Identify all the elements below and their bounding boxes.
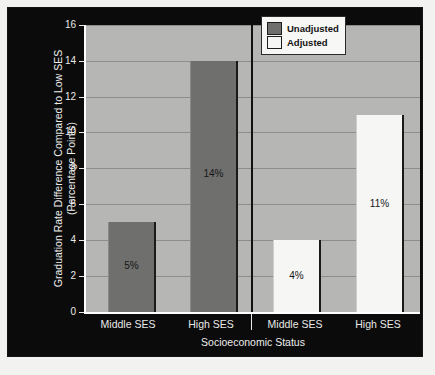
x-axis-line bbox=[84, 312, 420, 314]
legend-swatch-adjusted-icon bbox=[267, 36, 282, 49]
y-tick-label-0: 0 bbox=[16, 306, 76, 318]
y-tick-label-6: 6 bbox=[16, 198, 76, 210]
y-tick-label-16: 16 bbox=[16, 19, 76, 31]
legend-item-adjusted[interactable]: Adjusted bbox=[267, 36, 340, 49]
bar-label-unadjusted-high-ses: 14% bbox=[191, 168, 236, 179]
chart-figure: Graduation Rate Difference Compared to L… bbox=[0, 0, 435, 375]
x-tick-label-0: Middle SES bbox=[86, 318, 170, 330]
gridline-16 bbox=[86, 25, 420, 26]
bar-unadjusted-middle-ses[interactable]: 5% bbox=[108, 222, 156, 312]
x-tick-label-1: High SES bbox=[169, 318, 253, 330]
bar-label-unadjusted-middle-ses: 5% bbox=[109, 260, 154, 271]
gridline-12 bbox=[86, 97, 420, 98]
bar-adjusted-middle-ses[interactable]: 4% bbox=[273, 240, 321, 312]
legend-label-unadjusted: Unadjusted bbox=[287, 23, 339, 34]
bar-label-adjusted-high-ses: 11% bbox=[357, 198, 402, 209]
y-tick-label-10: 10 bbox=[16, 126, 76, 138]
legend-swatch-unadjusted-icon bbox=[267, 22, 282, 35]
bar-unadjusted-high-ses[interactable]: 14% bbox=[190, 61, 238, 312]
y-tick-label-14: 14 bbox=[16, 55, 76, 67]
y-tick-label-4: 4 bbox=[16, 234, 76, 246]
chart-legend: Unadjusted Adjusted bbox=[261, 16, 346, 55]
chart-frame: Graduation Rate Difference Compared to L… bbox=[8, 8, 422, 356]
plot-area: 5% 14% 4% 11% bbox=[86, 25, 420, 312]
x-tick-label-2: Middle SES bbox=[253, 318, 337, 330]
group-divider bbox=[251, 25, 253, 312]
x-axis-title: Socioeconomic Status bbox=[86, 336, 420, 348]
x-axis-group-divider-tick bbox=[251, 314, 252, 330]
y-tick-label-2: 2 bbox=[16, 270, 76, 282]
legend-item-unadjusted[interactable]: Unadjusted bbox=[267, 22, 340, 35]
x-tick-label-3: High SES bbox=[336, 318, 420, 330]
y-tick-label-8: 8 bbox=[16, 162, 76, 174]
bar-label-adjusted-middle-ses: 4% bbox=[274, 270, 319, 281]
gridline-14 bbox=[86, 61, 420, 62]
y-tick-label-12: 12 bbox=[16, 91, 76, 103]
bar-adjusted-high-ses[interactable]: 11% bbox=[356, 115, 404, 312]
legend-label-adjusted: Adjusted bbox=[287, 37, 328, 48]
